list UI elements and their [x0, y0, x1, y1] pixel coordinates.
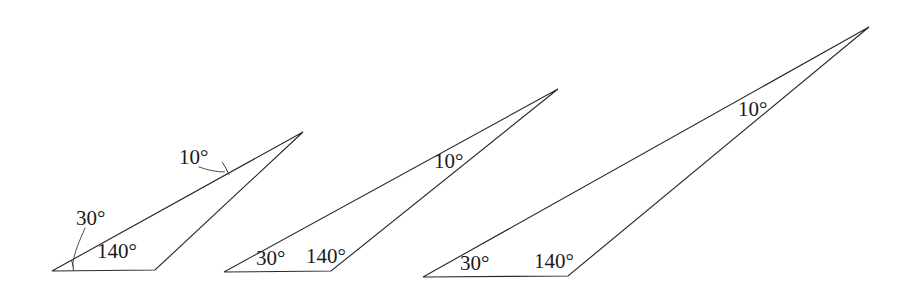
triangle-small-label-30: 30°	[76, 208, 105, 229]
triangle-medium-label-140: 140°	[306, 246, 346, 267]
triangle-medium-label-30: 30°	[256, 248, 285, 269]
triangle-large-label-30: 30°	[460, 253, 489, 274]
triangle-small-label-140: 140°	[97, 241, 137, 262]
geometry-figure: 30° 140° 10° 30° 140° 10° 30° 140° 10°	[0, 0, 911, 294]
triangle-small-label-10: 10°	[179, 147, 208, 168]
triangle-medium-label-10: 10°	[434, 151, 463, 172]
triangle-large-label-140: 140°	[534, 251, 574, 272]
triangle-large	[423, 27, 869, 277]
triangle-small-angle-30-leader	[73, 228, 86, 266]
triangle-large-label-10: 10°	[738, 99, 767, 120]
triangle-medium-outline	[224, 89, 558, 272]
triangle-small-angle-10-arc	[223, 163, 230, 175]
triangle-large-outline	[423, 27, 869, 277]
triangle-medium	[224, 89, 558, 272]
